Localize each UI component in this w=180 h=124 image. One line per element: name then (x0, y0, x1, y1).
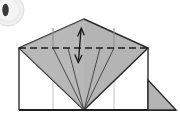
diagram-canvas (0, 0, 180, 124)
right-triangle-flap (148, 80, 176, 110)
badge-digit-glyph (2, 4, 8, 16)
step-number-badge (0, 0, 24, 26)
origami-step-illustration (0, 0, 180, 124)
